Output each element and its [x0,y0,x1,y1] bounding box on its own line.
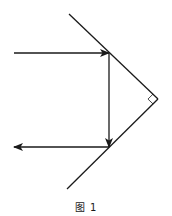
ray-group [14,53,109,147]
figure-caption: 图 1 [0,199,172,214]
periscope-reflection-diagram [0,0,172,216]
mirror-group [67,14,158,189]
right-angle-square [148,94,153,104]
upper-mirror [69,14,158,99]
right-angle-marker [148,94,153,104]
lower-mirror [67,99,158,189]
